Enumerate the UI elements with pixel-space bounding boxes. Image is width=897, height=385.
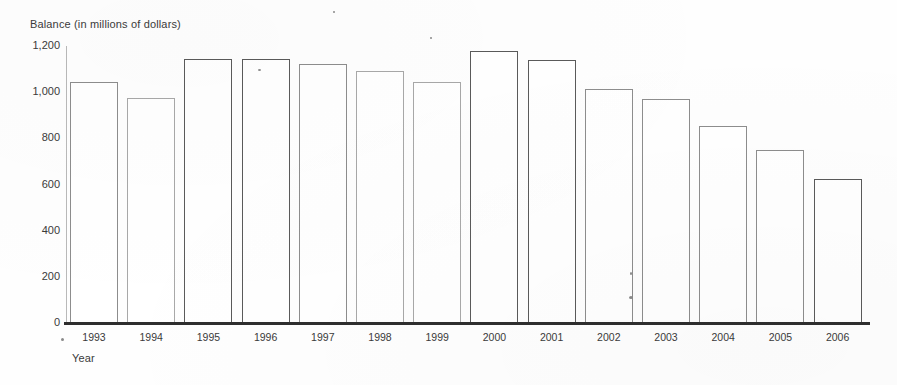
y-tick-label: 600 (20, 178, 60, 190)
bar (70, 82, 118, 323)
bar (814, 179, 862, 323)
x-tick-label: 2003 (636, 331, 696, 343)
scan-speck (630, 272, 632, 275)
x-tick-label: 1998 (350, 331, 410, 343)
x-tick-label: 2001 (522, 331, 582, 343)
bar (642, 99, 690, 323)
x-tick-label: 2000 (464, 331, 524, 343)
x-tick-label: 1995 (178, 331, 238, 343)
bar (242, 59, 290, 323)
scan-speck (258, 69, 261, 71)
y-tick-label: 0 (20, 316, 60, 328)
scan-speck (629, 296, 633, 299)
x-tick-label: 1994 (121, 331, 181, 343)
chart-page: Balance (in millions of dollars) Year 02… (0, 0, 897, 385)
y-tick-label: 400 (20, 224, 60, 236)
x-tick-label: 2006 (808, 331, 868, 343)
bar (699, 126, 747, 323)
y-tick-label: 200 (20, 270, 60, 282)
bar (413, 82, 461, 323)
bar (356, 71, 404, 323)
y-axis-line (66, 46, 67, 323)
x-tick-label: 2004 (693, 331, 753, 343)
scan-speck (333, 11, 335, 13)
x-tick-label: 1999 (407, 331, 467, 343)
y-tick-label: 800 (20, 131, 60, 143)
x-tick-label: 1997 (293, 331, 353, 343)
scan-speck (61, 338, 64, 341)
bar (299, 64, 347, 323)
bar (528, 60, 576, 323)
bar (756, 150, 804, 323)
x-tick-label: 1993 (64, 331, 124, 343)
x-tick-label: 2005 (750, 331, 810, 343)
bar (470, 51, 518, 323)
y-tick-label: 1,200 (20, 39, 60, 51)
x-axis-line (64, 322, 870, 325)
x-tick-label: 1996 (236, 331, 296, 343)
scan-speck (430, 37, 432, 39)
plot-area: 02004006008001,0001,200 1993199419951996… (0, 0, 897, 385)
x-tick-label: 2002 (579, 331, 639, 343)
bar (127, 98, 175, 323)
y-tick-label: 1,000 (20, 85, 60, 97)
bar (184, 59, 232, 323)
bar (585, 89, 633, 323)
